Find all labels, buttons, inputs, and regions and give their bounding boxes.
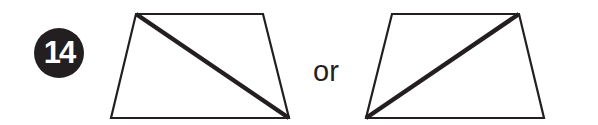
diagram-canvas bbox=[0, 0, 598, 125]
trapezoid-left bbox=[111, 14, 289, 118]
trapezoid-right bbox=[366, 14, 544, 118]
or-label: or bbox=[313, 54, 339, 88]
